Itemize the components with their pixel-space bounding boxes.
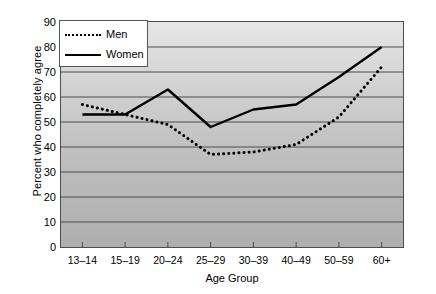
x-tick-label: 20–24 bbox=[153, 254, 182, 266]
y-tick-label: 10 bbox=[36, 216, 56, 228]
x-axis-title: Age Group bbox=[60, 272, 404, 284]
y-tick-label: 50 bbox=[36, 116, 56, 128]
chart-legend: Men Women bbox=[59, 20, 148, 67]
y-tick-label: 90 bbox=[36, 16, 56, 28]
x-tick-label: 25–29 bbox=[196, 254, 225, 266]
chart-container: Percent who completely agree 01020304050… bbox=[0, 0, 436, 294]
y-axis-tick-labels: 0102030405060708090 bbox=[34, 0, 56, 294]
series-line-men bbox=[82, 67, 381, 155]
y-tick-label: 0 bbox=[36, 241, 56, 253]
y-tick-label: 30 bbox=[36, 166, 56, 178]
legend-item-women: Women bbox=[60, 44, 147, 64]
x-tick-label: 13–14 bbox=[68, 254, 97, 266]
x-tick-label: 40–49 bbox=[282, 254, 311, 266]
y-tick-label: 20 bbox=[36, 191, 56, 203]
legend-label-men: Men bbox=[106, 28, 127, 40]
x-tick-label: 60+ bbox=[373, 254, 391, 266]
x-tick-label: 50–59 bbox=[324, 254, 353, 266]
x-tick-label: 15–19 bbox=[111, 254, 140, 266]
y-tick-label: 70 bbox=[36, 66, 56, 78]
legend-label-women: Women bbox=[106, 48, 144, 60]
legend-swatch-men bbox=[65, 29, 101, 39]
legend-swatch-women bbox=[65, 49, 101, 59]
y-tick-label: 60 bbox=[36, 91, 56, 103]
y-tick-label: 80 bbox=[36, 41, 56, 53]
x-tick-label: 30–39 bbox=[239, 254, 268, 266]
y-tick-label: 40 bbox=[36, 141, 56, 153]
legend-item-men: Men bbox=[60, 24, 147, 44]
